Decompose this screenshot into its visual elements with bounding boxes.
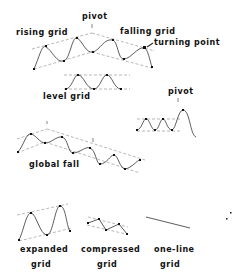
expanded-label: expanded [20, 245, 68, 254]
level-grid-label: level grid [43, 92, 90, 101]
pivot-label-right: pivot [168, 87, 194, 96]
turning-point-label: turning point [154, 38, 220, 47]
compressed-grid-label: grid [97, 260, 117, 269]
one-line-grid-label: grid [160, 260, 180, 269]
falling-lower-dash [92, 52, 152, 68]
falling-grid-label: falling grid [120, 27, 175, 36]
rising-grid-label: rising grid [16, 28, 68, 37]
expanded-grid-label: grid [31, 260, 51, 269]
global-fall-label: global fall [29, 160, 79, 169]
one-line-label: one-line [154, 245, 195, 254]
pivot-label-top: pivot [82, 12, 108, 21]
compressed-label: compressed [81, 245, 140, 254]
